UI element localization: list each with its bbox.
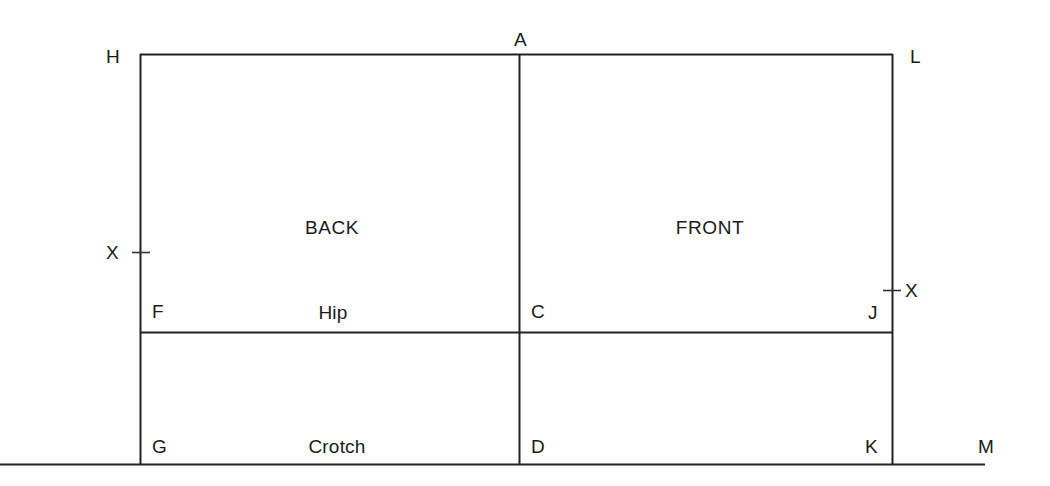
pattern-diagram: BACK FRONT Hip Crotch H A L X X F C J G … [0,0,1050,486]
measure-label-crotch: Crotch [308,437,365,456]
point-label-x-right: X [905,281,918,300]
point-label-l: L [910,47,921,66]
point-label-g: G [152,437,167,456]
point-label-a: A [514,30,527,49]
point-label-f: F [152,302,164,321]
measure-label-hip: Hip [318,303,347,322]
region-label-front: FRONT [676,218,744,237]
point-label-j: J [868,303,878,322]
diagram-linework [0,0,1050,486]
point-label-h: H [106,47,120,66]
point-label-k: K [865,437,878,456]
point-label-c: C [531,302,545,321]
point-label-m: M [978,437,994,456]
region-label-back: BACK [305,218,359,237]
point-label-x-left: X [106,243,119,262]
point-label-d: D [531,437,545,456]
